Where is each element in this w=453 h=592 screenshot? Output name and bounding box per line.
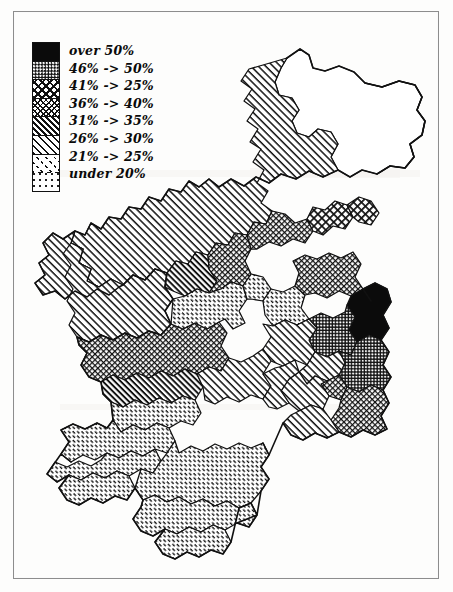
legend-label-over-50: over 50% xyxy=(69,42,154,60)
legend-swatch-26-30 xyxy=(33,136,59,155)
legend-swatch-21-25 xyxy=(33,155,59,174)
legend-label-26-30: 26% -> 30% xyxy=(69,130,154,148)
region-kildare xyxy=(309,305,357,357)
legend-swatch-46-50 xyxy=(33,62,59,81)
legend-label-under-20: under 20% xyxy=(69,165,154,183)
legend-swatch-36-40 xyxy=(33,99,59,118)
legend-label-31-35: 31% -> 35% xyxy=(69,112,154,130)
region-meath xyxy=(293,252,363,298)
legend-label-36-40: 36% -> 40% xyxy=(69,95,154,113)
legend-swatch-41-25 xyxy=(33,80,59,99)
legend-swatch-31-35 xyxy=(33,117,59,136)
legend-label-column: over 50% 46% -> 50% 41% -> 25% 36% -> 40… xyxy=(69,42,154,192)
region-louth xyxy=(347,197,379,225)
legend-swatch-column xyxy=(32,42,60,192)
legend-label-21-25: 21% -> 25% xyxy=(69,148,154,166)
region-offaly xyxy=(263,319,317,366)
legend-swatch-under-20 xyxy=(33,173,59,191)
map-legend: over 50% 46% -> 50% 41% -> 25% 36% -> 40… xyxy=(32,42,154,192)
legend-swatch-over-50 xyxy=(33,43,59,62)
map-figure: over 50% 46% -> 50% 41% -> 25% 36% -> 40… xyxy=(0,0,453,592)
legend-label-41-25: 41% -> 25% xyxy=(69,77,154,95)
region-monaghan xyxy=(307,201,353,235)
legend-label-46-50: 46% -> 50% xyxy=(69,60,154,78)
